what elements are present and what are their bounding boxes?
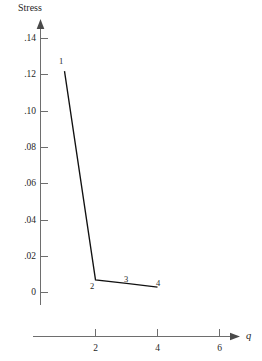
data-point-label-4: 4 [156, 279, 160, 288]
chart-canvas [0, 0, 262, 361]
y-tick-label-012: .12 [6, 69, 36, 79]
x-tick-label-4: 4 [142, 343, 173, 353]
y-tick-label-004: .04 [6, 215, 36, 225]
x-tick-label-2: 2 [80, 343, 111, 353]
x-axis-arrow-icon [230, 333, 240, 341]
stress-vs-q-chart: Stress q .14 .12 .10 .08 .06 .04 .02 0 2… [0, 0, 262, 361]
y-axis-arrow-icon [37, 19, 45, 29]
y-tick-label-008: .08 [6, 142, 36, 152]
x-axis-title: q [246, 330, 251, 341]
y-tick-label-000: 0 [6, 287, 36, 297]
data-point-label-3: 3 [124, 275, 128, 284]
data-point-label-1: 1 [59, 57, 63, 66]
y-tick-label-010: .10 [6, 106, 36, 116]
y-tick-label-006: .06 [6, 178, 36, 188]
y-tick-label-002: .02 [6, 251, 36, 261]
x-tick-label-6: 6 [204, 343, 235, 353]
y-tick-label-014: .14 [6, 33, 36, 43]
stress-series-line [65, 71, 158, 287]
data-point-label-2: 2 [90, 282, 94, 291]
y-axis-title: Stress [18, 2, 42, 13]
